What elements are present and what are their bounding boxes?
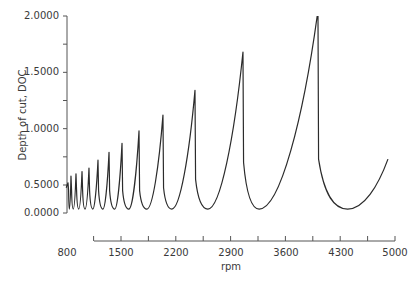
stability-lobe-chart: 2.0000 1.5000 1.0000 0.5000 0.0000 Depth… xyxy=(0,0,420,286)
y-axis: 2.0000 1.5000 1.0000 0.5000 0.0000 Depth… xyxy=(17,10,67,218)
y-tick-label-1-5: 1.5000 xyxy=(24,66,59,77)
stability-lobe-curve xyxy=(66,10,388,209)
x-tick-label-1500: 1500 xyxy=(108,247,133,258)
x-tick-label-3600: 3600 xyxy=(273,247,298,258)
y-axis-ticks xyxy=(63,16,67,213)
x-axis: 800 1500 2200 2900 3600 4300 5000 rpm xyxy=(57,236,407,272)
plot-area xyxy=(66,10,388,209)
x-axis-ticks xyxy=(94,236,395,241)
y-axis-title: Depth of cut, DOC xyxy=(17,69,28,160)
x-tick-label-2200: 2200 xyxy=(163,247,188,258)
x-axis-title: rpm xyxy=(221,261,241,272)
y-tick-label-0-5: 0.5000 xyxy=(24,179,59,190)
x-tick-label-2900: 2900 xyxy=(218,247,243,258)
y-tick-label-1: 1.0000 xyxy=(24,123,59,134)
y-tick-label-2: 2.0000 xyxy=(24,10,59,21)
y-tick-label-0: 0.0000 xyxy=(24,207,59,218)
x-tick-label-800: 800 xyxy=(57,247,76,258)
x-tick-label-4300: 4300 xyxy=(328,247,353,258)
x-tick-label-5000: 5000 xyxy=(382,247,407,258)
